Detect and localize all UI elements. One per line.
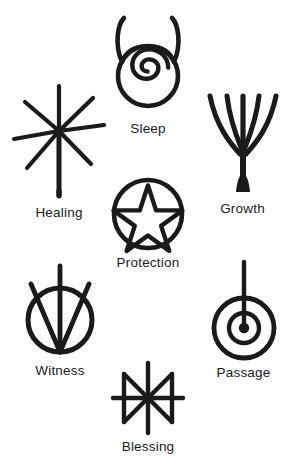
branching-tree-icon	[202, 88, 284, 198]
horned-circle-spiral-icon	[110, 14, 186, 118]
symbol-label-growth: Growth	[220, 201, 265, 216]
symbol-label-sleep: Sleep	[130, 121, 166, 136]
symbol-label-witness: Witness	[35, 363, 84, 378]
symbol-card-blessing[interactable]: Blessing	[96, 360, 200, 454]
eight-ray-rune-icon	[108, 360, 188, 436]
symbol-card-sleep[interactable]: Sleep	[96, 14, 200, 136]
pentacle-icon	[110, 176, 186, 252]
symbol-label-protection: Protection	[117, 255, 180, 270]
symbol-label-passage: Passage	[217, 365, 271, 380]
symbol-label-healing: Healing	[35, 205, 82, 220]
concentric-circles-with-line-icon	[208, 258, 280, 362]
symbol-card-protection[interactable]: Protection	[96, 176, 200, 270]
symbol-label-blessing: Blessing	[122, 439, 175, 454]
symbol-card-growth[interactable]: Growth	[190, 88, 295, 216]
circle-three-converging-lines-icon	[18, 262, 102, 360]
symbol-sheet: Healing Sleep	[0, 0, 295, 474]
symbol-card-passage[interactable]: Passage	[192, 258, 295, 380]
